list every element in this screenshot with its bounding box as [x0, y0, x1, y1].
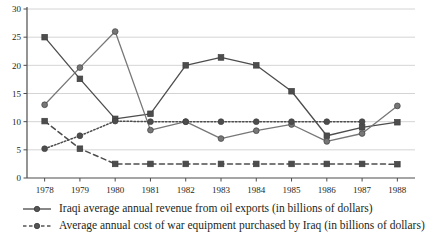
svg-text:20: 20 — [12, 61, 22, 71]
svg-text:10: 10 — [12, 117, 22, 127]
line-chart-svg: 051015202530 197819791980198119821983198… — [0, 0, 423, 200]
legend-item-war-equipment: Average annual cost of war equipment pur… — [22, 217, 423, 234]
plot-area: 051015202530 197819791980198119821983198… — [0, 0, 423, 200]
svg-text:25: 25 — [12, 32, 22, 42]
y-tick-labels: 051015202530 — [12, 4, 27, 183]
svg-text:0: 0 — [17, 173, 22, 183]
svg-text:1986: 1986 — [318, 185, 337, 195]
svg-text:1980: 1980 — [106, 185, 125, 195]
svg-text:5: 5 — [17, 145, 22, 155]
svg-text:1978: 1978 — [36, 185, 55, 195]
x-tick-labels: 1978197919801981198219831984198519861987… — [36, 185, 407, 195]
svg-text:1985: 1985 — [283, 185, 302, 195]
svg-text:1983: 1983 — [212, 185, 231, 195]
svg-text:1982: 1982 — [177, 185, 195, 195]
legend-sample-dashed-circle-icon — [22, 219, 52, 233]
legend-item-oil-revenue: Iraqi average annual revenue from oil ex… — [22, 200, 423, 217]
legend-label-war-equipment: Average annual cost of war equipment pur… — [59, 219, 425, 232]
svg-text:1981: 1981 — [141, 185, 159, 195]
svg-text:30: 30 — [12, 4, 22, 14]
x-axis — [27, 178, 415, 182]
svg-text:1984: 1984 — [247, 185, 266, 195]
series-markers — [42, 29, 401, 167]
chart-legend: Iraqi average annual revenue from oil ex… — [0, 200, 423, 236]
legend-label-oil-revenue: Iraqi average annual revenue from oil ex… — [59, 202, 373, 215]
legend-sample-solid-circle-icon — [22, 202, 52, 216]
svg-text:1979: 1979 — [71, 185, 90, 195]
series-lines — [45, 32, 398, 165]
svg-text:1987: 1987 — [353, 185, 372, 195]
svg-text:1988: 1988 — [388, 185, 407, 195]
svg-text:15: 15 — [12, 89, 22, 99]
